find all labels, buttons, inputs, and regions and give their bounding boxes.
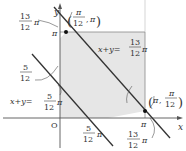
svg-text:13: 13 (130, 38, 140, 47)
svg-text:π: π (75, 8, 82, 17)
origin-label: O (51, 121, 58, 130)
point-right (143, 109, 147, 113)
svg-text:12: 12 (83, 135, 93, 144)
svg-text:12: 12 (20, 23, 30, 32)
svg-text:,: , (159, 96, 162, 105)
x-tick-13-12: 13 12 π (127, 130, 148, 150)
svg-text:,: , (86, 15, 89, 24)
svg-text:): ) (96, 14, 101, 29)
svg-text:): ) (178, 95, 183, 110)
svg-text:π: π (89, 15, 96, 24)
svg-text:π: π (168, 89, 175, 98)
svg-text:π: π (33, 18, 40, 27)
svg-text:12: 12 (44, 103, 54, 112)
y-tick-13-12: 13 12 π (19, 12, 40, 32)
point-label-top: ( π 12 , π ) (67, 8, 101, 29)
svg-text:5: 5 (23, 63, 28, 72)
svg-text:12: 12 (130, 49, 140, 58)
svg-text:π: π (96, 130, 103, 139)
leader-13-12-x (150, 118, 155, 138)
y-tick-5-12: 5 12 (20, 63, 32, 83)
svg-text:13: 13 (128, 130, 138, 139)
svg-text:12: 12 (20, 74, 30, 83)
x-axis-arrow-icon (177, 116, 183, 120)
svg-text:x+y=: x+y= (10, 97, 32, 106)
svg-text:π: π (152, 96, 159, 105)
svg-text:13: 13 (20, 12, 30, 21)
svg-text:12: 12 (165, 100, 175, 109)
line-label-5-12: x+y= 5 12 π (10, 92, 63, 112)
svg-text:π: π (141, 136, 148, 145)
svg-text:π: π (56, 98, 63, 107)
svg-text:5: 5 (86, 124, 91, 133)
diagram-canvas: y x O π π 13 12 π 5 12 x+y= 5 12 π 5 12 … (0, 0, 186, 151)
svg-text:12: 12 (73, 19, 83, 28)
point-top (64, 30, 68, 34)
x-axis-label: x (178, 122, 183, 132)
x-tick-pi: π (140, 120, 147, 129)
point-label-right: ( π , π 12 ) (148, 89, 183, 110)
svg-text:5: 5 (47, 92, 52, 101)
leader-5-12-y (35, 66, 58, 80)
svg-text:(: ( (67, 14, 72, 29)
y-tick-pi: π (51, 29, 58, 38)
svg-text:12: 12 (128, 141, 138, 150)
svg-text:π: π (141, 45, 148, 54)
svg-text:x+y=: x+y= (98, 45, 120, 54)
x-tick-5-12: 5 12 π (83, 124, 103, 144)
leader-13-12 (38, 20, 58, 27)
y-axis-label: y (53, 7, 60, 17)
